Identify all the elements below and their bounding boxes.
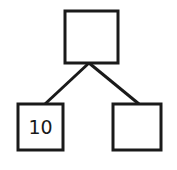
edge-root-left — [45, 63, 89, 104]
edge-root-right — [89, 63, 139, 104]
node-left-child-label: 10 — [28, 116, 52, 138]
node-right-child — [113, 104, 161, 150]
node-left-child: 10 — [18, 104, 63, 150]
node-root — [65, 11, 118, 63]
tree-diagram: 10 — [0, 0, 177, 170]
